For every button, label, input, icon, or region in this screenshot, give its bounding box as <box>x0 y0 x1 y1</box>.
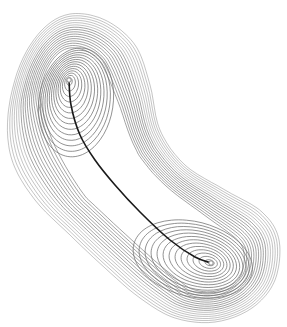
minimum-marker-upper <box>67 78 71 82</box>
contour-lines <box>7 14 280 323</box>
contour-diagram <box>0 0 287 327</box>
minimum-marker-lower <box>209 261 213 265</box>
